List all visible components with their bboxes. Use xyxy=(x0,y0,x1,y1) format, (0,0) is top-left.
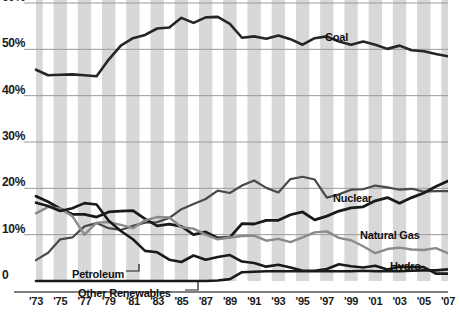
series-label-coal: Coal xyxy=(325,31,348,43)
y-tick-label: 0 xyxy=(2,268,8,282)
year-band xyxy=(175,0,188,281)
y-tick-label: 30% xyxy=(2,129,25,143)
year-band xyxy=(78,0,91,281)
y-tick-label: 20% xyxy=(2,175,25,189)
year-band xyxy=(441,0,448,281)
year-band xyxy=(151,0,164,281)
series-label-hydro: Hydro xyxy=(390,260,421,272)
series-label-natural-gas: Natural Gas xyxy=(360,229,420,241)
series-line-coal xyxy=(36,17,448,76)
y-tick-label: 10% xyxy=(2,222,25,236)
year-band xyxy=(102,0,115,281)
year-band xyxy=(199,0,212,281)
y-tick-label: 60% xyxy=(2,0,25,4)
leader-line-other-renewables xyxy=(185,281,198,290)
y-tick-label: 50% xyxy=(2,36,25,50)
series-label-other-renewables: Other Renewables xyxy=(78,287,171,299)
year-band xyxy=(36,0,43,281)
series-label-petroleum: Petroleum xyxy=(72,268,124,280)
series-lines xyxy=(36,17,448,281)
series-label-nuclear: Nuclear xyxy=(333,192,372,204)
y-tick-label: 40% xyxy=(2,83,25,97)
x-tick-label: '07 xyxy=(434,295,460,307)
series-line-nuclear xyxy=(36,177,448,260)
